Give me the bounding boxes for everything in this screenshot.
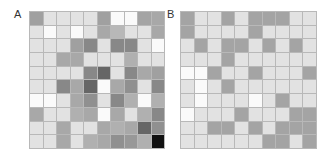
heatmap-cell (84, 39, 97, 52)
heatmap-cell (152, 67, 165, 80)
heatmap-cell (138, 80, 151, 93)
heatmap-cell (290, 108, 303, 121)
heatmap-cell (125, 67, 138, 80)
heatmap-cell (263, 53, 276, 66)
heatmap-cell (195, 39, 208, 52)
heatmap-grid-b (180, 11, 317, 149)
heatmap-cell (195, 80, 208, 93)
heatmap-cell (111, 135, 124, 148)
heatmap-cell (138, 122, 151, 135)
heatmap-cell (181, 53, 194, 66)
heatmap-cell (125, 135, 138, 148)
heatmap-cell (111, 53, 124, 66)
heatmap-cell (222, 26, 235, 39)
heatmap-cell (84, 94, 97, 107)
heatmap-cell (195, 67, 208, 80)
heatmap-cell (57, 67, 70, 80)
heatmap-cell (222, 67, 235, 80)
heatmap-cell (125, 80, 138, 93)
heatmap-cell (30, 12, 43, 25)
heatmap-cell (152, 39, 165, 52)
heatmap-cell (44, 108, 57, 121)
heatmap-cell (138, 108, 151, 121)
heatmap-cell (290, 26, 303, 39)
heatmap-cell (71, 135, 84, 148)
heatmap-cell (111, 108, 124, 121)
heatmap-cell (263, 67, 276, 80)
heatmap-cell (263, 108, 276, 121)
heatmap-cell (303, 80, 316, 93)
heatmap-cell (57, 26, 70, 39)
heatmap-cell (276, 67, 289, 80)
heatmap-cell (30, 108, 43, 121)
heatmap-cell (84, 26, 97, 39)
heatmap-cell (30, 80, 43, 93)
heatmap-cell (290, 12, 303, 25)
heatmap-cell (222, 39, 235, 52)
heatmap-cell (138, 39, 151, 52)
heatmap-cell (44, 26, 57, 39)
heatmap-cell (71, 39, 84, 52)
panel-label-b: B (167, 9, 174, 20)
heatmap-cell (84, 67, 97, 80)
heatmap-cell (30, 67, 43, 80)
heatmap-cell (181, 26, 194, 39)
heatmap-cell (98, 122, 111, 135)
heatmap-cell (235, 67, 248, 80)
heatmap-cell (111, 12, 124, 25)
heatmap-cell (208, 108, 221, 121)
heatmap-cell (235, 108, 248, 121)
heatmap-cell (276, 108, 289, 121)
heatmap-cell (98, 39, 111, 52)
heatmap-cell (84, 12, 97, 25)
heatmap-cell (84, 53, 97, 66)
heatmap-cell (290, 80, 303, 93)
heatmap-cell (303, 39, 316, 52)
heatmap-cell (276, 53, 289, 66)
heatmap-cell (303, 67, 316, 80)
heatmap-cell (222, 135, 235, 148)
heatmap-cell (30, 26, 43, 39)
heatmap-cell (222, 80, 235, 93)
heatmap-cell (71, 80, 84, 93)
heatmap-cell (222, 108, 235, 121)
heatmap-cell (138, 12, 151, 25)
heatmap-cell (208, 67, 221, 80)
heatmap-cell (84, 122, 97, 135)
heatmap-cell (303, 108, 316, 121)
heatmap-cell (249, 108, 262, 121)
heatmap-cell (125, 94, 138, 107)
heatmap-cell (181, 12, 194, 25)
heatmap-cell (84, 80, 97, 93)
heatmap-cell (303, 53, 316, 66)
heatmap-cell (290, 39, 303, 52)
heatmap-cell (303, 26, 316, 39)
heatmap-cell (57, 12, 70, 25)
heatmap-cell (30, 135, 43, 148)
heatmap-cell (249, 53, 262, 66)
heatmap-cell (249, 122, 262, 135)
heatmap-cell (30, 122, 43, 135)
heatmap-cell (235, 26, 248, 39)
heatmap-cell (208, 94, 221, 107)
heatmap-cell (98, 135, 111, 148)
heatmap-cell (111, 122, 124, 135)
heatmap-cell (181, 94, 194, 107)
heatmap-cell (30, 39, 43, 52)
heatmap-cell (98, 94, 111, 107)
heatmap-cell (138, 135, 151, 148)
heatmap-cell (71, 53, 84, 66)
heatmap-cell (57, 122, 70, 135)
heatmap-cell (276, 26, 289, 39)
heatmap-cell (152, 53, 165, 66)
heatmap-cell (303, 94, 316, 107)
heatmap-cell (138, 67, 151, 80)
heatmap-cell (249, 135, 262, 148)
heatmap-cell (71, 122, 84, 135)
heatmap-cell (84, 108, 97, 121)
heatmap-cell (44, 135, 57, 148)
heatmap-cell (208, 12, 221, 25)
heatmap-cell (57, 80, 70, 93)
heatmap-cell (249, 26, 262, 39)
heatmap-cell (290, 135, 303, 148)
